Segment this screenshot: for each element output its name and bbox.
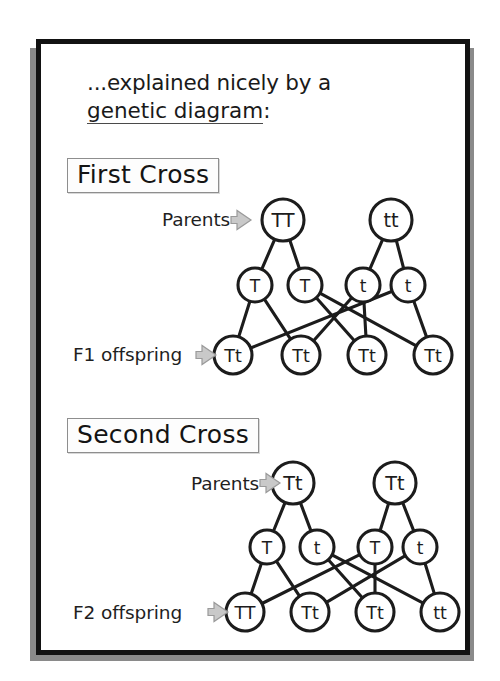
headline-line-2: genetic diagram: xyxy=(87,98,270,123)
node-c1-offspring-1-circle xyxy=(291,593,329,631)
node-c0-gamete-2-label: t xyxy=(360,276,367,296)
edge-c0-gamete1-offspring2 xyxy=(316,298,354,341)
label-f1-offspring: F1 offspring xyxy=(73,344,182,365)
edge-c1-parent0-gamete0 xyxy=(273,502,285,531)
node-c0-offspring-3-label: Tt xyxy=(423,346,442,366)
node-c0-gamete-0-label: T xyxy=(249,276,261,296)
node-c0-parent-1-label: tt xyxy=(383,209,399,232)
node-c0-offspring-1: Tt xyxy=(282,336,320,374)
node-c1-gamete-2-circle xyxy=(358,530,392,564)
edge-c0-gamete3-offspring3 xyxy=(414,301,427,337)
arrow-icon-f2-offspring xyxy=(208,603,228,622)
edge-c1-gamete3-offspring1 xyxy=(326,556,405,603)
node-c1-gamete-1: t xyxy=(300,530,334,564)
node-c0-parent-1: tt xyxy=(370,199,412,241)
node-c0-parent-0-circle xyxy=(262,199,304,241)
node-c1-parent-0: Tt xyxy=(272,462,314,504)
node-c1-offspring-0-circle xyxy=(226,593,264,631)
node-c0-parent-0-label: TT xyxy=(270,209,294,232)
diagram-edges xyxy=(239,239,435,603)
edge-c0-parent0-gamete0 xyxy=(262,239,275,269)
node-c1-offspring-0: TT xyxy=(226,593,264,631)
node-c1-gamete-3-circle xyxy=(403,530,437,564)
node-c1-offspring-2: Tt xyxy=(356,593,394,631)
node-c0-offspring-3: Tt xyxy=(414,336,452,374)
edge-c1-parent1-gamete3 xyxy=(403,503,414,532)
edge-c0-gamete2-offspring1 xyxy=(314,298,352,341)
headline-text-2: genetic diagram xyxy=(87,98,263,124)
node-c1-gamete-1-circle xyxy=(300,530,334,564)
arrow-icon-parents-first xyxy=(231,211,251,230)
node-c0-gamete-0-circle xyxy=(238,268,272,302)
node-c0-gamete-1-circle xyxy=(288,268,322,302)
node-c1-gamete-0-label: T xyxy=(261,538,273,558)
node-c1-parent-1-circle xyxy=(374,462,416,504)
node-c0-gamete-3-label: t xyxy=(405,276,412,296)
edge-c1-gamete2-offspring0 xyxy=(262,555,360,604)
node-c0-offspring-1-label: Tt xyxy=(291,346,310,366)
edge-c1-gamete3-offspring3 xyxy=(425,563,434,594)
node-c1-offspring-1-label: Tt xyxy=(300,603,319,623)
node-c1-parent-0-circle xyxy=(272,462,314,504)
node-c1-offspring-1: Tt xyxy=(291,593,329,631)
node-c1-gamete-0: T xyxy=(250,530,284,564)
node-c0-gamete-2: t xyxy=(346,268,380,302)
node-c0-offspring-0: Tt xyxy=(214,336,252,374)
edge-c1-gamete0-offspring0 xyxy=(251,563,261,594)
edge-c1-gamete0-offspring1 xyxy=(276,561,299,596)
headline-colon: : xyxy=(263,98,270,123)
edge-c0-gamete1-offspring3 xyxy=(320,293,416,346)
section-title-second-cross: Second Cross xyxy=(67,418,259,453)
label-parents-second-cross: Parents xyxy=(191,473,259,494)
node-c0-offspring-2-circle xyxy=(348,336,386,374)
node-c1-offspring-2-circle xyxy=(356,593,394,631)
node-c1-gamete-2-label: T xyxy=(369,538,381,558)
section-title-first-cross: First Cross xyxy=(67,158,219,193)
headline-line-1: ...explained nicely by a xyxy=(87,69,331,98)
node-c0-offspring-0-circle xyxy=(214,336,252,374)
node-c0-offspring-2: Tt xyxy=(348,336,386,374)
node-c0-parent-0: TT xyxy=(262,199,304,241)
edge-c1-parent1-gamete2 xyxy=(380,503,389,531)
node-c1-offspring-0-label: TT xyxy=(233,603,255,623)
edge-c0-parent1-gamete2 xyxy=(370,239,383,269)
node-c0-offspring-0-label: Tt xyxy=(223,346,242,366)
node-c0-gamete-3-circle xyxy=(391,268,425,302)
node-c0-offspring-2-label: Tt xyxy=(357,346,376,366)
edge-c0-gamete0-offspring0 xyxy=(239,301,250,337)
arrow-icon-parents-second xyxy=(260,474,280,493)
node-c1-offspring-3-label: tt xyxy=(433,603,447,623)
node-c0-offspring-1-circle xyxy=(282,336,320,374)
node-c0-gamete-3: t xyxy=(391,268,425,302)
node-c1-gamete-0-circle xyxy=(250,530,284,564)
edge-c0-parent1-gamete3 xyxy=(396,240,403,268)
node-c1-gamete-3-label: t xyxy=(417,538,424,558)
label-parents-first-cross: Parents xyxy=(162,209,230,230)
slide-content: ...explained nicely by a genetic diagram… xyxy=(41,44,465,650)
slide-page: ...explained nicely by a genetic diagram… xyxy=(0,0,500,681)
node-c1-parent-1: Tt xyxy=(374,462,416,504)
node-c1-offspring-2-label: Tt xyxy=(365,603,384,623)
diagram-nodes: TTttTTttTtTtTtTtTtTtTtTtTTTtTttt xyxy=(214,199,459,631)
node-c1-gamete-2: T xyxy=(358,530,392,564)
node-c1-offspring-3: tt xyxy=(421,593,459,631)
edge-c0-gamete2-offspring2 xyxy=(364,302,366,336)
edge-c1-parent0-gamete1 xyxy=(300,503,311,531)
headline-text-1: ...explained nicely by a xyxy=(87,70,331,95)
edge-c0-gamete3-offspring0 xyxy=(251,291,393,348)
node-c0-gamete-1-label: T xyxy=(299,276,311,296)
node-c1-offspring-3-circle xyxy=(421,593,459,631)
edge-c1-gamete1-offspring2 xyxy=(328,560,362,598)
edge-c1-gamete1-offspring3 xyxy=(332,555,423,603)
node-c0-offspring-3-circle xyxy=(414,336,452,374)
slide-frame: ...explained nicely by a genetic diagram… xyxy=(36,39,470,655)
edge-c0-gamete0-offspring1 xyxy=(264,299,290,339)
node-c1-gamete-1-label: t xyxy=(314,538,321,558)
node-c0-gamete-2-circle xyxy=(346,268,380,302)
node-c0-parent-1-circle xyxy=(370,199,412,241)
node-c0-gamete-1: T xyxy=(288,268,322,302)
arrow-icon-f1-offspring xyxy=(196,346,216,365)
node-c1-gamete-3: t xyxy=(403,530,437,564)
node-c0-gamete-0: T xyxy=(238,268,272,302)
edge-c0-parent0-gamete1 xyxy=(290,240,300,269)
